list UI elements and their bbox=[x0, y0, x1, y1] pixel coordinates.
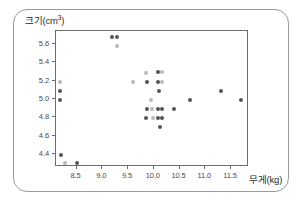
x-tick-label: 9.0 bbox=[88, 171, 114, 180]
x-tick-mark bbox=[230, 166, 231, 169]
y-tick-label: 4.4 bbox=[25, 149, 49, 158]
data-point bbox=[157, 89, 161, 93]
plot-area bbox=[55, 30, 248, 166]
data-point bbox=[145, 80, 149, 84]
y-tick-label: 5.4 bbox=[25, 57, 49, 66]
y-tick-mark bbox=[52, 153, 55, 154]
data-point bbox=[188, 98, 192, 102]
data-point bbox=[145, 107, 149, 111]
x-tick-label: 10.5 bbox=[166, 171, 192, 180]
data-points-layer bbox=[56, 31, 247, 165]
x-tick-label: 11.5 bbox=[217, 171, 243, 180]
x-tick-mark bbox=[179, 166, 180, 169]
y-axis-label-paren: ) bbox=[61, 15, 64, 26]
data-point bbox=[158, 125, 162, 129]
data-point bbox=[149, 98, 153, 102]
x-tick-mark bbox=[76, 166, 77, 169]
y-tick-mark bbox=[52, 61, 55, 62]
x-axis-label: 무게(kg) bbox=[249, 172, 282, 186]
y-axis-label: 크기(cm3) bbox=[25, 13, 64, 27]
data-point bbox=[172, 107, 176, 111]
y-tick-label: 5.6 bbox=[25, 38, 49, 47]
data-point bbox=[160, 70, 164, 74]
data-point bbox=[58, 80, 62, 84]
data-point bbox=[58, 89, 62, 93]
data-point bbox=[144, 71, 148, 75]
scatter-plot-figure: 크기(cm3) 무게(kg) 5.65.45.25.04.84.64.4 8.5… bbox=[0, 0, 302, 201]
y-tick-mark bbox=[52, 98, 55, 99]
x-tick-label: 8.5 bbox=[63, 171, 89, 180]
y-tick-label: 5.2 bbox=[25, 75, 49, 84]
data-point bbox=[115, 44, 119, 48]
data-point bbox=[239, 98, 243, 102]
y-tick-mark bbox=[52, 80, 55, 81]
data-point bbox=[160, 80, 164, 84]
data-point bbox=[160, 116, 164, 120]
x-tick-mark bbox=[101, 166, 102, 169]
x-tick-mark bbox=[204, 166, 205, 169]
data-point bbox=[63, 161, 67, 165]
y-tick-label: 4.6 bbox=[25, 130, 49, 139]
data-point bbox=[160, 107, 164, 111]
x-tick-mark bbox=[127, 166, 128, 169]
x-tick-label: 11.0 bbox=[191, 171, 217, 180]
data-point bbox=[150, 107, 154, 111]
data-point bbox=[131, 80, 135, 84]
data-point bbox=[219, 89, 223, 93]
data-point bbox=[115, 35, 119, 39]
y-tick-mark bbox=[52, 43, 55, 44]
x-tick-label: 10.0 bbox=[140, 171, 166, 180]
data-point bbox=[59, 153, 63, 157]
x-tick-label: 9.5 bbox=[114, 171, 140, 180]
y-axis-label-text: 크기(cm bbox=[25, 15, 58, 26]
data-point bbox=[75, 161, 79, 165]
y-tick-label: 5.0 bbox=[25, 94, 49, 103]
y-tick-mark bbox=[52, 135, 55, 136]
data-point bbox=[58, 98, 62, 102]
data-point bbox=[151, 116, 155, 120]
data-point bbox=[110, 35, 114, 39]
data-point bbox=[144, 116, 148, 120]
y-tick-label: 4.8 bbox=[25, 112, 49, 121]
y-tick-mark bbox=[52, 116, 55, 117]
x-tick-mark bbox=[153, 166, 154, 169]
